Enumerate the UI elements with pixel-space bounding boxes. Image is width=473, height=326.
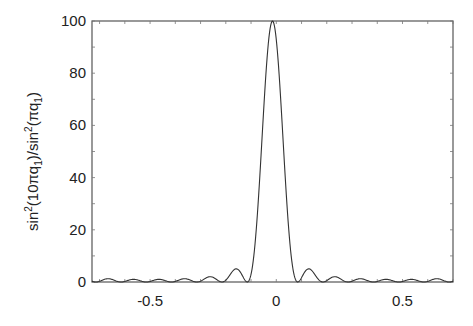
data-curve [92, 21, 453, 282]
y-tick-label: 0 [78, 273, 86, 290]
y-axis-ticks: 020406080100 [61, 12, 86, 290]
y-tick-label: 60 [69, 116, 86, 133]
x-tick-label: 0 [272, 292, 280, 309]
chart: 020406080100 -0.500.5 sin2(10πq1)/sin2(π… [0, 0, 473, 326]
x-tick-label: 0.5 [392, 292, 413, 309]
y-tick-label: 40 [69, 169, 86, 186]
y-tick-label: 100 [61, 12, 86, 29]
minor-ticks [92, 21, 453, 282]
y-tick-label: 20 [69, 221, 86, 238]
y-axis-title: sin2(10πq1)/sin2(πq1) [23, 92, 44, 231]
x-tick-label: -0.5 [137, 292, 163, 309]
plot-frame [92, 21, 453, 282]
x-axis-ticks: -0.500.5 [137, 292, 413, 309]
y-tick-label: 80 [69, 64, 86, 81]
